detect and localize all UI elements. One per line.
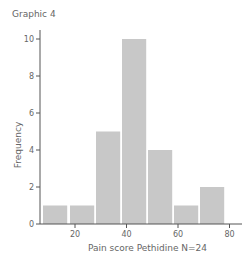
histogram-bar <box>200 187 224 224</box>
histogram-bar <box>122 39 146 224</box>
histogram-bar <box>70 206 94 225</box>
svg-text:0: 0 <box>29 220 34 229</box>
svg-text:60: 60 <box>173 230 183 239</box>
histogram-bar <box>43 206 67 225</box>
svg-text:4: 4 <box>29 146 34 155</box>
svg-text:80: 80 <box>224 230 234 239</box>
svg-text:6: 6 <box>29 109 34 118</box>
histogram-plot: 024681020406080 <box>0 0 250 263</box>
svg-text:10: 10 <box>24 35 34 44</box>
svg-text:20: 20 <box>70 230 80 239</box>
svg-text:2: 2 <box>29 183 34 192</box>
histogram-bar <box>174 206 198 225</box>
histogram-bar <box>96 132 120 225</box>
histogram-bar <box>148 150 172 224</box>
svg-text:8: 8 <box>29 72 34 81</box>
svg-text:40: 40 <box>121 230 131 239</box>
